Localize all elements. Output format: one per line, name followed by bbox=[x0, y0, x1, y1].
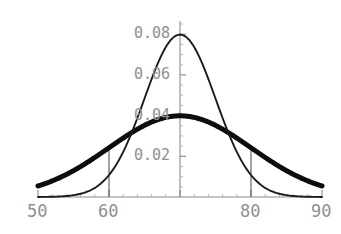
y-axis-ticks bbox=[180, 24, 186, 187]
y-tick-label-0.04: 0.04 bbox=[134, 106, 170, 124]
axes-group bbox=[38, 21, 322, 197]
x-tick-label-90: 90 bbox=[311, 201, 331, 221]
x-tick-label-50: 50 bbox=[27, 201, 47, 221]
y-tick-label-0.06: 0.06 bbox=[134, 65, 170, 83]
x-tick-label-80: 80 bbox=[240, 201, 260, 221]
y-tick-label-0.02: 0.02 bbox=[134, 146, 170, 164]
normal-distribution-chart: 50608090 0.020.040.060.08 bbox=[0, 0, 341, 234]
x-tick-label-60: 60 bbox=[98, 201, 118, 221]
plot-area bbox=[0, 0, 341, 234]
y-tick-label-0.08: 0.08 bbox=[134, 24, 170, 42]
